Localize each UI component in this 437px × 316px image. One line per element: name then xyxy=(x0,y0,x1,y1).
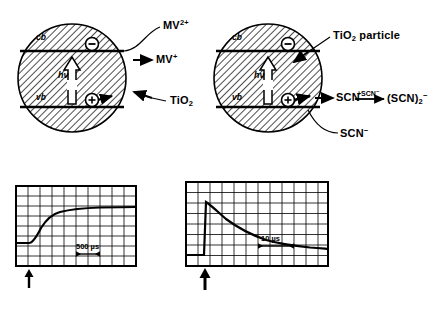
hole-symbol-left xyxy=(86,94,99,107)
oscilloscope-left xyxy=(16,186,136,288)
scn-minus-leader-line xyxy=(308,110,338,133)
label-reagent-scn: +SCN− xyxy=(357,88,379,97)
tio2-leader-line-left xyxy=(152,98,166,101)
scale-label-left: 500 µs xyxy=(76,242,99,251)
figure-root: MV2+ MV+ TiO2 TiO2 particle SCN +SCN− (S… xyxy=(0,0,437,316)
trigger-arrow-left xyxy=(25,269,34,288)
label-hv-right: hν xyxy=(254,70,265,80)
label-mv2plus: MV2+ xyxy=(163,19,189,31)
label-product-scn2: (SCN)2− xyxy=(387,92,428,106)
electron-symbol-left xyxy=(86,38,99,51)
label-mvplus: MV+ xyxy=(156,53,178,65)
mv2plus-leader-line xyxy=(124,27,160,51)
label-tio2-particle: TiO2 particle xyxy=(333,30,400,43)
figure-canvas xyxy=(0,0,437,316)
label-cb-left: cb xyxy=(36,32,46,42)
label-hv-left: hν xyxy=(58,70,69,80)
scale-label-right: 10 µs xyxy=(261,234,280,243)
oscilloscope-right xyxy=(186,182,328,290)
label-cb-right: cb xyxy=(232,32,242,42)
trigger-arrow-right xyxy=(200,268,211,290)
hole-symbol-right xyxy=(282,94,295,107)
electron-symbol-right xyxy=(282,38,295,51)
label-scn-minus: SCN− xyxy=(340,127,368,139)
tio2-leader-arrow-left xyxy=(134,92,152,98)
label-vb-left: vb xyxy=(36,92,46,102)
label-tio2-left: TiO2 xyxy=(170,95,193,108)
label-vb-right: vb xyxy=(232,92,242,102)
